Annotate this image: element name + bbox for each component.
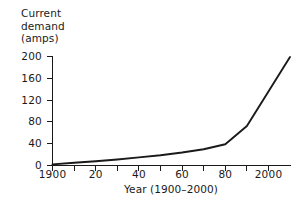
y-tick-label-160: 160 xyxy=(8,73,42,84)
y-tick-label-40: 40 xyxy=(8,138,42,149)
data-series-current-demand xyxy=(53,57,291,164)
x-tick-label-1900: 1900 xyxy=(31,169,75,180)
x-tick-label-80: 80 xyxy=(203,169,247,180)
y-axis-ticks xyxy=(47,57,53,166)
y-axis-title: Current demand (amps) xyxy=(21,7,101,45)
x-tick-label-60: 60 xyxy=(160,169,204,180)
x-tick-label-20: 20 xyxy=(74,169,118,180)
x-tick-label-2000: 2000 xyxy=(247,169,291,180)
chart-figure: Current demand (amps) 200 160 120 80 40 … xyxy=(0,0,297,204)
y-tick-label-120: 120 xyxy=(8,95,42,106)
x-axis-title: Year (1900–2000) xyxy=(52,183,290,195)
x-tick-label-40: 40 xyxy=(117,169,161,180)
y-tick-label-80: 80 xyxy=(8,116,42,127)
y-tick-label-200: 200 xyxy=(8,51,42,62)
